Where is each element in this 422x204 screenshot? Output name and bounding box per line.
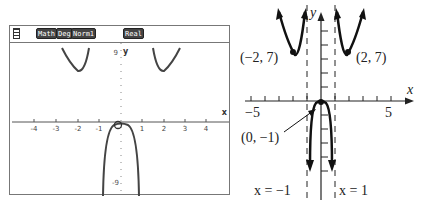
- x-axis-label: x: [406, 82, 414, 97]
- y-min-label: -9: [112, 179, 119, 187]
- point-vertex: [318, 99, 324, 105]
- label-point-left: (−2, 7): [240, 50, 279, 66]
- x-tick-label: -1: [96, 125, 103, 133]
- x-tick-min: −5: [245, 105, 260, 120]
- y-max-label: 9: [114, 49, 118, 57]
- label-point-right: (2, 7): [356, 50, 387, 66]
- left-branch-curve: [279, 12, 305, 55]
- x-tick-label: 3: [183, 125, 187, 133]
- right-branch-curve: [337, 12, 363, 55]
- x-tick-label: 2: [162, 125, 166, 133]
- x-axis-label: x: [222, 108, 228, 117]
- left-branch-curve: [62, 48, 89, 71]
- x-tick-label: 1: [140, 125, 144, 133]
- label-asymptote-left: x = −1: [254, 183, 291, 198]
- x-tick-max: 5: [385, 105, 392, 120]
- right-branch-curve: [153, 48, 180, 71]
- x-tick-label: -2: [75, 125, 82, 133]
- vertex-leader-line: [284, 111, 313, 132]
- textbook-graph: (−2, 7) (2, 7) (0, −1) x = −1 x = 1 −5 5…: [240, 0, 422, 204]
- point-right: [345, 49, 351, 55]
- x-tick-label: 4: [204, 125, 209, 133]
- label-point-vertex: (0, −1): [241, 130, 280, 146]
- calculator-screen: Math Deg Norm1 Real -4 -3 -2 -1 1 2 3 4 …: [9, 25, 230, 195]
- point-left: [290, 49, 296, 55]
- x-tick-label: -3: [53, 125, 60, 133]
- calculator-graph: -4 -3 -2 -1 1 2 3 4 x y 9 -9: [10, 26, 231, 196]
- x-tick-label: -4: [31, 125, 39, 133]
- y-axis-label: y: [123, 47, 129, 56]
- y-axis-label: y: [308, 5, 317, 20]
- label-asymptote-right: x = 1: [339, 183, 368, 198]
